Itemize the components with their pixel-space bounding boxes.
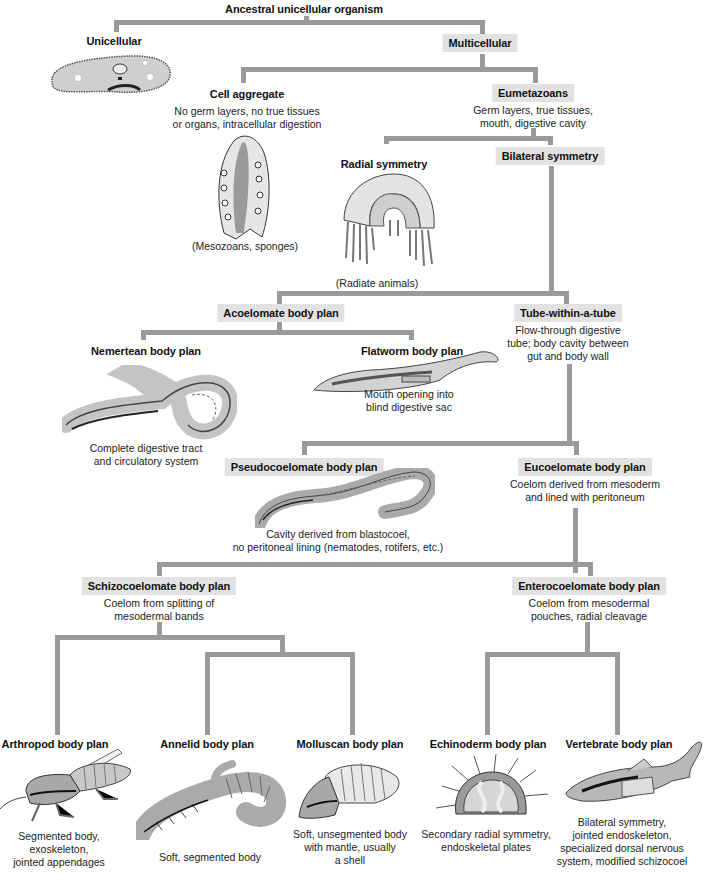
- node-title: Unicellular: [80, 32, 147, 50]
- node-title: Acoelomate body plan: [217, 304, 344, 322]
- node-desc-line: blind digestive sac: [364, 401, 453, 414]
- connector: [302, 441, 579, 446]
- node-desc-line: Segmented body,: [13, 830, 105, 843]
- node-title: Molluscan body plan: [291, 735, 410, 753]
- node-desc-line: and lined with peritoneum: [510, 491, 660, 504]
- node-desc-line: exoskeleton,: [13, 843, 105, 856]
- connector: [55, 635, 60, 735]
- connector: [585, 622, 590, 655]
- node-title: Bilateral symmetry: [496, 147, 605, 165]
- node-eucoelomate: Eucoelomate body plan Coelom derived fro…: [510, 457, 660, 504]
- connector: [480, 20, 485, 34]
- node-title: Tube-within-a-tube: [514, 304, 622, 322]
- connector: [157, 562, 162, 576]
- node-pseudocoelomate-desc: Cavity derived from blastocoel, no perit…: [233, 526, 444, 554]
- connector: [241, 67, 538, 72]
- node-desc-line: mouth, digestive cavity: [473, 117, 593, 130]
- node-ancestral: Ancestral unicellular organism: [219, 0, 389, 18]
- connector: [55, 635, 285, 640]
- node-flatworm-desc: Mouth opening into blind digestive sac: [364, 386, 453, 414]
- node-caption: (Radiate animals): [336, 277, 418, 290]
- connector: [384, 136, 389, 144]
- chiton-icon: [295, 757, 405, 822]
- node-echinoderm-desc: Secondary radial symmetry, endoskeletal …: [421, 826, 550, 854]
- node-echinoderm: Echinoderm body plan: [424, 734, 553, 753]
- connector: [350, 652, 355, 735]
- connector: [615, 652, 620, 735]
- node-desc-line: endoskeletal plates: [421, 841, 550, 854]
- node-arthropod-desc: Segmented body, exoskeleton, jointed app…: [13, 828, 105, 869]
- node-molluscan-desc: Soft, unsegmented body with mantle, usua…: [293, 826, 407, 867]
- roundworm-icon: [255, 468, 435, 528]
- connector: [241, 67, 246, 83]
- node-title: Enterocoelomate body plan: [512, 577, 666, 595]
- node-desc-line: system, modified schizocoel: [557, 855, 688, 868]
- node-molluscan: Molluscan body plan: [291, 734, 410, 753]
- node-nemertean-desc: Complete digestive tract and circulatory…: [90, 440, 203, 468]
- node-desc-line: Complete digestive tract: [90, 442, 203, 455]
- node-acoelomate: Acoelomate body plan: [217, 303, 344, 322]
- sea-urchin-icon: [432, 752, 552, 824]
- node-desc-line: pouches, radial cleavage: [512, 610, 666, 623]
- node-desc-line: Soft, segmented body: [159, 851, 261, 864]
- connector: [409, 330, 414, 340]
- node-caption: (Mesozoans, sponges): [192, 240, 298, 253]
- node-title: Echinoderm body plan: [424, 735, 553, 753]
- node-desc-line: No germ layers, no true tissues: [173, 105, 322, 118]
- connector: [533, 67, 538, 83]
- paramecium-icon: [48, 52, 176, 98]
- sponge-icon: [214, 133, 274, 243]
- node-desc-line: Bilateral symmetry,: [557, 816, 688, 829]
- node-desc-line: Coelom from mesodermal: [512, 597, 666, 610]
- node-desc-line: and circulatory system: [90, 455, 203, 468]
- connector: [384, 136, 553, 141]
- node-desc-line: or organs, intracellular digestion: [173, 118, 322, 131]
- node-desc-line: Secondary radial symmetry,: [421, 828, 550, 841]
- connector: [141, 330, 414, 335]
- node-unicellular: Unicellular: [80, 31, 147, 50]
- connector: [588, 562, 593, 576]
- node-desc-line: Mouth opening into: [364, 388, 453, 401]
- node-tube-within-tube: Tube-within-a-tube Flow-through digestiv…: [507, 303, 628, 363]
- connector: [549, 166, 554, 293]
- node-desc-line: a shell: [293, 854, 407, 867]
- node-annelid-desc: Soft, segmented body: [159, 849, 261, 864]
- node-desc-line: gut and body wall: [507, 350, 628, 363]
- fish-icon: [562, 737, 705, 812]
- node-title: Multicellular: [443, 34, 518, 52]
- connector: [141, 330, 146, 340]
- node-title: Nemertean body plan: [85, 342, 207, 360]
- node-title: Eucoelomate body plan: [518, 458, 651, 476]
- jellyfish-icon: [340, 170, 440, 270]
- connector: [485, 652, 620, 657]
- node-title: Cell aggregate: [204, 85, 290, 103]
- node-annelid: Annelid body plan: [154, 734, 260, 753]
- ribbon-worm-icon: [62, 365, 237, 445]
- node-desc-line: Coelom derived from mesoderm: [510, 478, 660, 491]
- earthworm-icon: [136, 760, 286, 840]
- connector: [157, 562, 593, 567]
- insect-icon: [0, 745, 135, 825]
- node-title: Ancestral unicellular organism: [219, 0, 389, 18]
- node-bilateral-symmetry: Bilateral symmetry: [496, 146, 605, 165]
- node-desc-line: no peritoneal lining (nematodes, rotifer…: [233, 541, 444, 554]
- connector: [205, 652, 355, 657]
- connector: [485, 652, 490, 735]
- connector: [574, 441, 579, 455]
- node-multicellular: Multicellular: [443, 33, 518, 52]
- connector: [205, 652, 210, 735]
- connector: [567, 364, 572, 444]
- node-desc-line: mesodermal bands: [82, 610, 236, 623]
- connector: [277, 291, 569, 296]
- node-desc-line: Soft, unsegmented body: [293, 828, 407, 841]
- connector: [114, 20, 485, 25]
- connector: [548, 136, 553, 145]
- node-desc-line: jointed appendages: [13, 856, 105, 869]
- node-desc-line: Flow-through digestive: [507, 324, 628, 337]
- node-desc-line: specialized dorsal nervous: [557, 842, 688, 855]
- node-desc-line: tube; body cavity between: [507, 337, 628, 350]
- node-title: Annelid body plan: [154, 735, 260, 753]
- node-desc-line: Coelom from splitting of: [82, 597, 236, 610]
- node-desc-line: with mantle, usually: [293, 841, 407, 854]
- connector: [302, 441, 307, 455]
